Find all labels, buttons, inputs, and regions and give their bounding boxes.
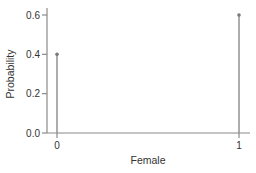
stem-chart: 0.00.20.40.6 01 Probability Female xyxy=(0,0,256,173)
y-axis-ticks: 0.00.20.40.6 xyxy=(26,10,47,139)
y-tick-label: 0.0 xyxy=(26,128,40,139)
x-tick-label: 0 xyxy=(54,140,60,151)
y-axis-label: Probability xyxy=(4,49,16,99)
stem-marker xyxy=(55,53,59,57)
axes xyxy=(47,8,250,133)
x-axis-ticks: 01 xyxy=(54,133,242,151)
x-tick-label: 1 xyxy=(236,140,242,151)
data-stems xyxy=(55,13,241,133)
x-axis-label: Female xyxy=(130,154,165,166)
y-tick-label: 0.2 xyxy=(26,88,40,99)
y-tick-label: 0.4 xyxy=(26,49,40,60)
stem-marker xyxy=(237,13,241,17)
y-tick-label: 0.6 xyxy=(26,10,40,21)
